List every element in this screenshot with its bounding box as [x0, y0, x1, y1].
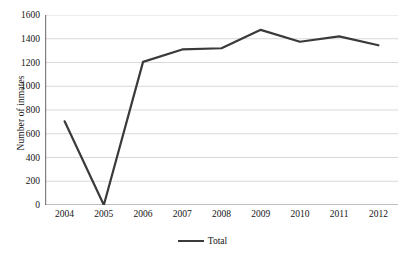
y-axis-tick-label: 1400 [0, 34, 40, 44]
gridlines [45, 15, 398, 205]
y-axis-tick-label: 0 [0, 200, 40, 210]
y-axis-tick-label: 800 [0, 105, 40, 115]
plot-svg [45, 15, 398, 205]
y-axis-tick-label: 1000 [0, 81, 40, 91]
line-chart-figure: Number of inmates 0200400600800100012001… [0, 0, 405, 258]
chart-legend: Total [0, 232, 405, 250]
plot-area [45, 15, 398, 205]
legend-line-icon [178, 240, 204, 242]
legend-label: Total [208, 235, 227, 247]
x-axis-tick-label: 2012 [355, 208, 401, 220]
y-axis-tick-label: 200 [0, 176, 40, 186]
y-axis-tick-labels: 02004006008001000120014001600 [0, 0, 40, 258]
legend-item-total: Total [178, 235, 227, 247]
y-axis-tick-label: 1200 [0, 58, 40, 68]
y-axis-tick-label: 400 [0, 153, 40, 163]
series-line-total [65, 30, 379, 205]
x-axis-tick-labels: 200420052006200720082009201020112012 [45, 208, 398, 224]
y-axis-tick-label: 1600 [0, 10, 40, 20]
y-axis-tick-label: 600 [0, 129, 40, 139]
